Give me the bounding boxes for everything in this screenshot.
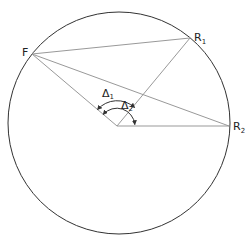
label-delta2-sub: 2 — [129, 105, 133, 113]
label-r2: R2 — [233, 120, 245, 135]
label-delta2: Δ2 — [121, 99, 133, 113]
diagram-canvas: F R1 R2 Δ1 Δ2 — [0, 0, 249, 242]
label-r1: R1 — [194, 31, 206, 46]
circle-geometry-diagram: F R1 R2 Δ1 Δ2 — [0, 0, 249, 242]
label-f: F — [22, 46, 28, 59]
chord-f-r1 — [32, 38, 190, 54]
label-delta1: Δ1 — [102, 87, 114, 101]
label-r1-sub: 1 — [202, 38, 206, 46]
label-r2-sub: 2 — [241, 127, 245, 135]
label-delta1-sub: 1 — [110, 93, 114, 101]
